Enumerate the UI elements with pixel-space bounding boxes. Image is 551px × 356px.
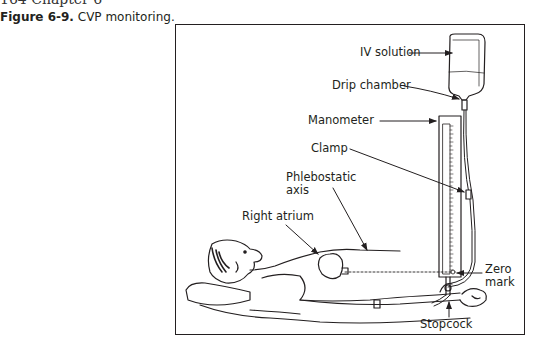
label-stopcock: Stopcock — [420, 318, 473, 331]
label-iv-solution: IV solution — [360, 46, 420, 59]
patient-illustration — [186, 240, 486, 323]
drip-chamber-icon — [462, 100, 467, 110]
label-drip-chamber: Drip chamber — [332, 79, 411, 92]
cvp-illustration — [0, 0, 551, 356]
label-clamp: Clamp — [311, 142, 348, 155]
clamp-icon — [466, 190, 471, 199]
iv-bag-icon — [449, 34, 485, 100]
label-zero-mark: Zero mark — [485, 263, 515, 289]
label-right-atrium: Right atrium — [242, 210, 314, 223]
heart-icon — [318, 254, 348, 279]
label-manometer: Manometer — [308, 114, 374, 127]
manometer-icon — [439, 116, 461, 277]
label-phlebostatic-axis: Phlebostatic axis — [286, 171, 356, 197]
